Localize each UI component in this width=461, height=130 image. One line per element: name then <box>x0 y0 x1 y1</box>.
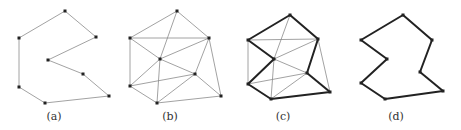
thin-edge <box>45 96 109 103</box>
vertex-dot <box>108 95 111 98</box>
vertex-dot <box>317 38 320 41</box>
vertex-dot <box>402 14 405 17</box>
panel-d-result-polygon: (d) <box>360 14 445 124</box>
vertex-dot <box>18 86 21 89</box>
vertex-dot <box>129 85 132 88</box>
vertex-dot <box>386 58 389 61</box>
thin-edge <box>157 96 221 103</box>
vertex-dot <box>47 59 50 62</box>
thin-edge <box>19 87 45 103</box>
vertex-dot <box>270 98 273 101</box>
thin-edge <box>130 38 160 59</box>
thin-edge <box>177 11 209 38</box>
thin-edge <box>48 37 96 60</box>
vertex-dot <box>176 10 179 13</box>
vertex-dot <box>129 37 132 40</box>
vertex-dot <box>82 73 85 76</box>
vertex-dot <box>384 98 387 101</box>
vertex-dot <box>159 58 162 61</box>
vertex-dot <box>360 82 363 85</box>
vertex-dot <box>247 83 250 86</box>
thin-edge <box>65 11 96 37</box>
vertex-dot <box>273 58 276 61</box>
panel-c-highlighted-cycle: (c) <box>247 14 332 124</box>
thick-edge <box>361 15 403 40</box>
thick-edge <box>248 40 274 59</box>
thin-edge <box>248 39 318 40</box>
thick-edge <box>361 59 387 83</box>
thick-edge <box>248 15 290 40</box>
vertex-dot <box>329 91 332 94</box>
thick-edge <box>290 15 318 39</box>
panel-b-triangulation: (b) <box>129 10 223 124</box>
panel-label: (c) <box>276 110 291 123</box>
vertex-dot <box>95 36 98 39</box>
thick-edge <box>420 40 432 72</box>
thick-edge <box>420 72 443 91</box>
vertex-dot <box>419 71 422 74</box>
thick-edge <box>403 15 432 40</box>
polygon-triangulation-figure: (a) (b) (c) (d) <box>0 0 461 130</box>
thick-edge <box>361 40 387 59</box>
panel-label: (b) <box>162 110 178 123</box>
vertex-dot <box>220 95 223 98</box>
vertex-dot <box>64 10 67 13</box>
vertex-dot <box>442 90 445 93</box>
vertex-dot <box>289 14 292 17</box>
panel-a-polygon: (a) <box>18 10 111 124</box>
thick-edge <box>385 91 443 99</box>
vertex-dot <box>306 72 309 75</box>
vertex-dot <box>44 102 47 105</box>
thin-edge <box>130 59 160 86</box>
thin-edge <box>83 74 109 96</box>
vertex-dot <box>360 39 363 42</box>
thin-edge <box>274 59 307 73</box>
thick-edge <box>361 83 385 99</box>
vertex-dot <box>431 39 434 42</box>
thin-edge <box>19 11 65 38</box>
panel-label: (d) <box>388 110 404 123</box>
thin-edge <box>160 59 195 74</box>
vertex-dot <box>194 73 197 76</box>
thin-edge <box>130 86 157 103</box>
thin-edge <box>157 74 195 103</box>
vertex-dot <box>156 102 159 105</box>
vertex-dot <box>247 39 250 42</box>
thick-edge <box>307 39 318 73</box>
thin-edge <box>130 74 195 86</box>
thin-edge <box>130 11 177 38</box>
thin-edge <box>48 60 83 74</box>
thick-edge <box>248 84 271 99</box>
thin-edge <box>160 11 177 59</box>
panel-label: (a) <box>46 110 61 123</box>
vertex-dot <box>18 37 21 40</box>
vertex-dot <box>208 37 211 40</box>
